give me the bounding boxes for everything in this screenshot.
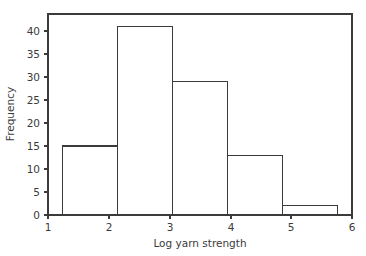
x-axis-title: Log yarn strength: [153, 237, 246, 249]
x-tick-label: 5: [288, 221, 295, 233]
y-tick-label: 25: [27, 94, 40, 106]
y-tick-label: 40: [27, 25, 40, 37]
x-tickmarks: [48, 215, 352, 219]
x-tick-label: 4: [228, 221, 235, 233]
plot-canvas: 0 5 10 15 20 25 30 35 40 1 2 3 4 5 6: [0, 0, 366, 256]
y-tick-label: 0: [33, 209, 40, 221]
y-axis-title: Frequency: [4, 87, 16, 141]
plot-area-background: [48, 14, 352, 215]
x-tick-label: 1: [45, 221, 52, 233]
x-tick-label: 3: [167, 221, 174, 233]
x-tick-label: 6: [349, 221, 356, 233]
y-tickmarks: [44, 31, 48, 215]
y-tick-label: 20: [27, 117, 40, 129]
y-tick-label: 5: [33, 186, 40, 198]
x-tick-label: 2: [106, 221, 113, 233]
y-tick-label: 35: [27, 48, 40, 60]
y-tick-label: 30: [27, 71, 40, 83]
y-tick-labels: 0 5 10 15 20 25 30 35 40: [27, 25, 40, 221]
y-tick-label: 10: [27, 163, 40, 175]
histogram-figure: 0 5 10 15 20 25 30 35 40 1 2 3 4 5 6: [0, 0, 366, 256]
y-tick-label: 15: [27, 140, 40, 152]
x-tick-labels: 1 2 3 4 5 6: [45, 221, 356, 233]
